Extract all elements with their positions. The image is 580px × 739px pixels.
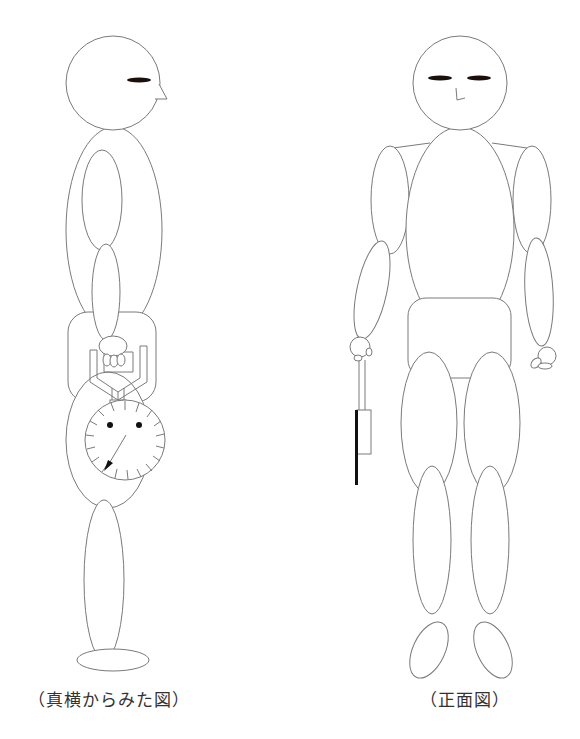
front-head [413,36,507,130]
front-foot-left [466,616,520,684]
side-head [66,36,160,130]
front-upper-arm-left [513,146,551,254]
dynamometer-grip-bar [355,410,358,485]
front-forearm-right [347,238,397,342]
side-view-caption: （真横からみた図） [28,686,190,711]
front-eye-left [467,76,491,81]
side-foot [77,649,149,671]
side-lower-leg [84,500,124,660]
side-forearm [92,244,120,340]
dynamometer-body [357,410,371,454]
dial-dot-left [107,422,113,428]
diagram-canvas [0,0,580,739]
front-view-caption: （正面図） [420,686,510,711]
front-eye-right [428,76,452,81]
side-dynamometer-dial [85,400,165,480]
front-lower-leg-left [471,466,509,614]
dial-dot-right [136,422,142,428]
front-hand-right [350,337,372,361]
front-forearm-left [522,237,556,346]
front-dynamometer [355,360,371,485]
front-hand-left [529,347,556,370]
side-hand [99,336,127,367]
front-foot-right [402,616,456,684]
front-upper-arm-right [371,146,409,254]
front-view-figure [347,36,556,684]
front-lower-leg-right [413,466,451,614]
side-eye [127,78,151,83]
side-view-figure [66,36,167,671]
side-upper-arm [82,150,122,250]
